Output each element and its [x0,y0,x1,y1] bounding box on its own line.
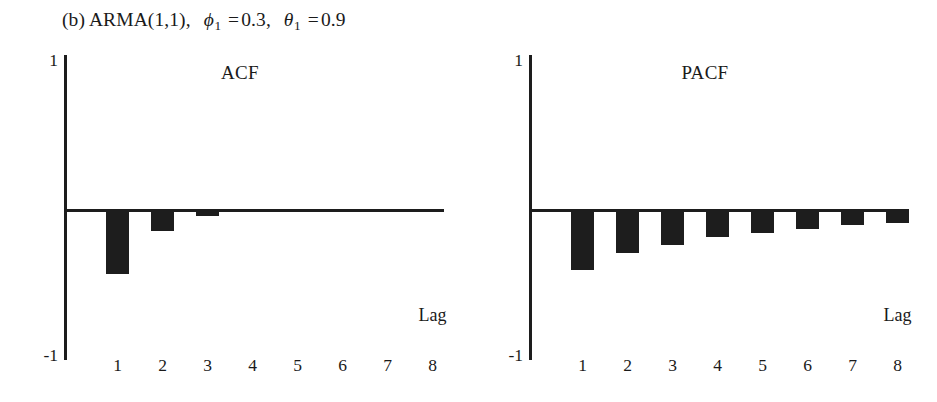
theta-equals: = [306,9,321,30]
bar [841,211,864,225]
x-tick-label: 6 [331,355,354,376]
pacf-y-bottom-label: -1 [497,345,523,366]
acf-x-tick-labels: 12345678 [64,355,444,385]
acf-plot-area: 1 -1 12345678 Lag [64,55,444,360]
acf-panel: ACF 1 -1 12345678 Lag [30,50,450,395]
acf-y-top-label: 1 [32,50,58,71]
x-tick-label: 2 [151,355,174,376]
x-tick-label: 3 [196,355,219,376]
acf-bars [64,55,444,360]
figure-caption: (b) ARMA(1,1), ϕ1 =0.3, θ1 =0.9 [62,8,346,38]
bar [661,211,684,245]
theta-symbol: θ [284,9,294,30]
bar [571,211,594,270]
bar [751,211,774,233]
bar [106,211,129,274]
x-tick-label: 5 [286,355,309,376]
x-tick-label: 8 [421,355,444,376]
x-tick-label: 7 [376,355,399,376]
x-tick-label: 1 [106,355,129,376]
phi-subscript: 1 [214,18,221,33]
bar [151,211,174,231]
x-tick-label: 3 [661,355,684,376]
bar [886,211,909,223]
acf-y-bottom-label: -1 [32,345,58,366]
bar [706,211,729,237]
x-tick-label: 2 [616,355,639,376]
bar [796,211,819,229]
figure-arma-acf-pacf: (b) ARMA(1,1), ϕ1 =0.3, θ1 =0.9 ACF 1 -1… [0,0,937,402]
acf-lag-axis-title: Lag [410,305,456,326]
x-tick-label: 4 [706,355,729,376]
bar [616,211,639,253]
bar [196,211,219,216]
caption-prefix: (b) ARMA(1,1), [62,9,191,30]
x-tick-label: 6 [796,355,819,376]
x-tick-label: 8 [886,355,909,376]
pacf-x-tick-labels: 12345678 [529,355,909,385]
theta-value: 0.9 [321,9,346,30]
pacf-bars [529,55,909,360]
phi-value: 0.3 [241,9,266,30]
pacf-panel: PACF 1 -1 12345678 Lag [495,50,915,395]
pacf-plot-area: 1 -1 12345678 Lag [529,55,909,360]
x-tick-label: 4 [241,355,264,376]
caption-comma: , [266,9,271,30]
phi-symbol: ϕ [204,9,214,30]
theta-subscript: 1 [294,18,301,33]
x-tick-label: 1 [571,355,594,376]
phi-equals: = [226,9,241,30]
x-tick-label: 5 [751,355,774,376]
x-tick-label: 7 [841,355,864,376]
pacf-lag-axis-title: Lag [875,305,921,326]
pacf-y-top-label: 1 [497,50,523,71]
bar [241,211,264,212]
